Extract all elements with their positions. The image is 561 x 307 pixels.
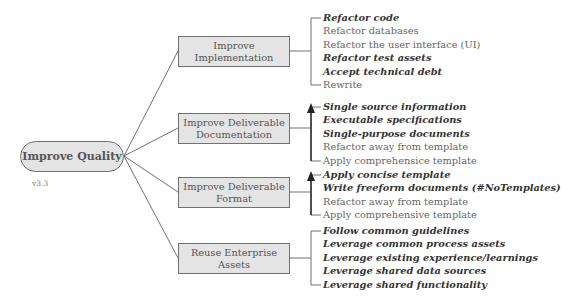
- leaf-list-improve-implementation: Refactor code Refactor databases Refacto…: [323, 11, 480, 91]
- leaf-item: Leverage shared data sources: [323, 264, 538, 277]
- leaf-item: Single source information: [323, 100, 477, 113]
- leaf-list-improve-deliverable-documentation: Single source information Executable spe…: [323, 100, 477, 167]
- leaf-item: Rewrite: [323, 78, 480, 91]
- branch-title-line: Documentation: [196, 129, 272, 141]
- leaf-item: Apply comprehensice template: [323, 154, 477, 167]
- leaf-item: Write freeform documents (#NoTemplates): [323, 181, 561, 194]
- leaf-item: Refactor away from template: [323, 195, 561, 208]
- leaf-item: Refactor away from template: [323, 140, 477, 153]
- branch-node-reuse-enterprise-assets: Reuse Enterprise Assets: [178, 243, 290, 274]
- branch-title-line: Implementation: [195, 52, 274, 64]
- branch-node-improve-deliverable-format: Improve Deliverable Format: [178, 177, 290, 208]
- leaf-item: Single-purpose documents: [323, 127, 477, 140]
- leaf-item: Executable specifications: [323, 113, 477, 126]
- branch-title-line: Improve Deliverable: [183, 117, 284, 129]
- leaf-item: Refactor code: [323, 11, 480, 24]
- branch-title-line: Assets: [218, 259, 250, 271]
- leaf-item: Refactor test assets: [323, 51, 480, 64]
- root-node: Improve Quality: [20, 141, 124, 172]
- leaf-item: Leverage shared functionality: [323, 278, 538, 291]
- leaf-item: Follow common guidelines: [323, 224, 538, 237]
- version-label: v3.3: [32, 179, 48, 188]
- branch-title-line: Improve Deliverable: [183, 181, 284, 193]
- leaf-item: Leverage existing experience/learnings: [323, 251, 538, 264]
- leaf-item: Apply comprehensive template: [323, 208, 561, 221]
- branch-node-improve-deliverable-documentation: Improve Deliverable Documentation: [178, 113, 290, 144]
- leaf-list-reuse-enterprise-assets: Follow common guidelines Leverage common…: [323, 224, 538, 291]
- leaf-item: Apply concise template: [323, 168, 561, 181]
- branch-title-line: Format: [216, 193, 252, 205]
- root-label: Improve Quality: [22, 150, 121, 163]
- leaf-item: Leverage common process assets: [323, 237, 538, 250]
- leaf-item: Refactor the user interface (UI): [323, 38, 480, 51]
- leaf-item: Accept technical debt: [323, 65, 480, 78]
- arrow-up-icon: [307, 171, 315, 215]
- arrow-up-icon: [307, 103, 315, 161]
- branch-node-improve-implementation: Improve Implementation: [178, 36, 290, 67]
- leaf-list-improve-deliverable-format: Apply concise template Write freeform do…: [323, 168, 561, 222]
- branch-title-line: Improve: [213, 40, 254, 52]
- leaf-item: Refactor databases: [323, 24, 480, 37]
- branch-title-line: Reuse Enterprise: [191, 247, 277, 259]
